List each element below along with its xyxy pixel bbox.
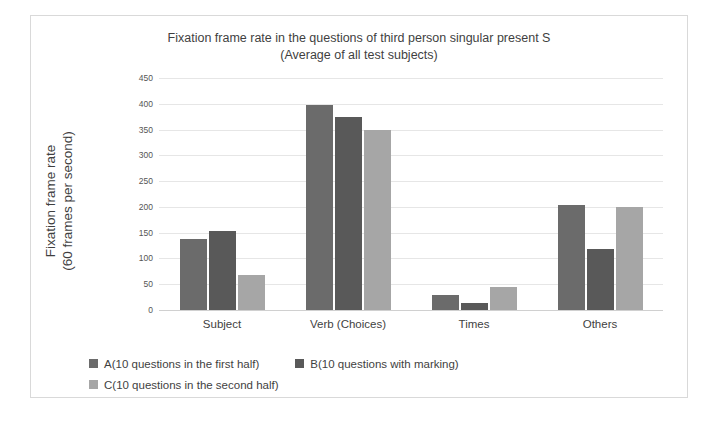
chart-legend: A(10 questions in the first half)B(10 qu… (89, 353, 689, 395)
legend-label: B(10 questions with marking) (310, 358, 458, 370)
y-axis-title: Fixation frame rate (60 frames per secon… (42, 101, 76, 301)
y-tick-label: 200 (139, 202, 153, 212)
chart-title-line2: (Average of all test subjects) (31, 47, 687, 64)
legend-item[interactable]: C(10 questions in the second half) (89, 379, 279, 391)
legend-row: A(10 questions in the first half)B(10 qu… (89, 353, 689, 374)
y-tick-label: 350 (139, 125, 153, 135)
y-tick-label: 150 (139, 228, 153, 238)
legend-swatch-icon (89, 380, 98, 389)
bar[interactable] (587, 249, 614, 310)
y-tick-label: 450 (139, 73, 153, 83)
x-axis-tick-label: Others (537, 318, 663, 330)
bar[interactable] (180, 239, 207, 310)
chart-frame: Fixation frame rate in the questions of … (30, 15, 688, 398)
y-tick-label: 100 (139, 253, 153, 263)
bar[interactable] (461, 303, 488, 310)
bar-group (432, 78, 517, 310)
bar-group (180, 78, 265, 310)
legend-row: C(10 questions in the second half) (89, 374, 689, 395)
chart-title-line1: Fixation frame rate in the questions of … (168, 31, 551, 45)
x-axis-tick-label: Times (411, 318, 537, 330)
bar[interactable] (364, 130, 391, 310)
legend-label: A(10 questions in the first half) (104, 358, 259, 370)
legend-item[interactable]: B(10 questions with marking) (295, 358, 458, 370)
bar[interactable] (432, 295, 459, 310)
bar[interactable] (616, 207, 643, 310)
y-tick-label: 300 (139, 150, 153, 160)
x-axis-tick-label: Verb (Choices) (285, 318, 411, 330)
bar[interactable] (558, 205, 585, 310)
plot-area: 050100150200250300350400450 (159, 78, 663, 310)
legend-swatch-icon (89, 359, 98, 368)
bar[interactable] (238, 275, 265, 310)
y-tick-label: 250 (139, 176, 153, 186)
y-tick-label: 50 (144, 279, 153, 289)
y-axis-title-line2: (60 frames per second) (59, 101, 76, 301)
bar[interactable] (209, 231, 236, 310)
x-axis-tick-label: Subject (159, 318, 285, 330)
chart-title: Fixation frame rate in the questions of … (31, 30, 687, 64)
bar-group (306, 78, 391, 310)
y-tick-label: 400 (139, 99, 153, 109)
bar[interactable] (306, 105, 333, 310)
legend-swatch-icon (295, 359, 304, 368)
y-axis-title-line1: Fixation frame rate (42, 101, 59, 301)
bar[interactable] (490, 287, 517, 310)
legend-item[interactable]: A(10 questions in the first half) (89, 358, 259, 370)
y-tick-label: 0 (148, 305, 153, 315)
legend-label: C(10 questions in the second half) (104, 379, 279, 391)
bar-group (558, 78, 643, 310)
gridline: 0 (159, 310, 663, 311)
bar[interactable] (335, 117, 362, 310)
